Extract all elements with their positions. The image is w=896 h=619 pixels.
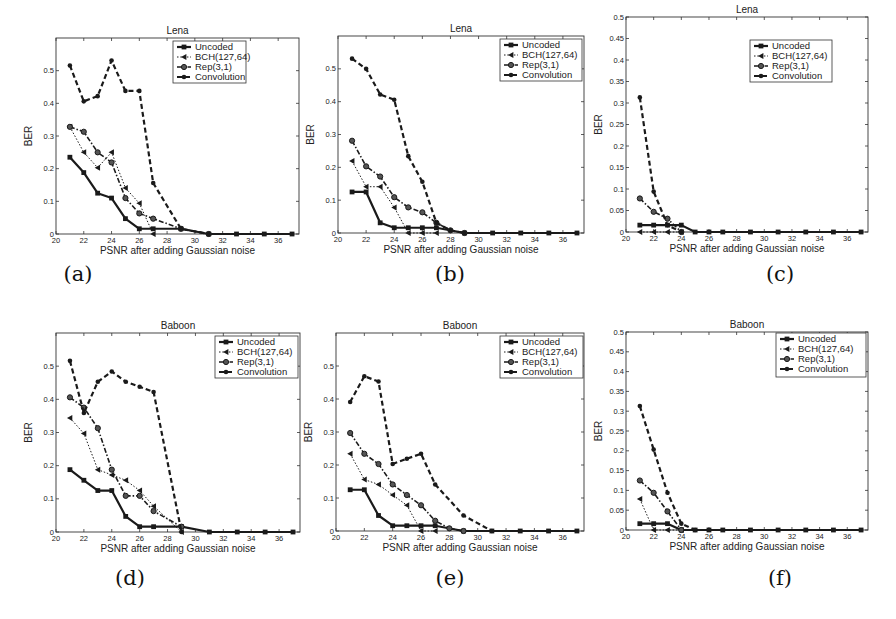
- dot-marker: [96, 379, 101, 384]
- dot-marker: [68, 359, 73, 364]
- triangle-marker: [361, 477, 366, 483]
- triangle-marker: [664, 527, 669, 533]
- circle-marker: [679, 527, 684, 532]
- legend-entry: Convolution: [522, 69, 572, 80]
- x-tick-label: 26: [417, 533, 425, 542]
- square-marker: [390, 523, 395, 528]
- square-marker: [419, 523, 424, 528]
- x-tick-label: 34: [530, 533, 538, 542]
- triangle-marker: [181, 54, 186, 60]
- square-marker: [785, 337, 790, 342]
- triangle-marker: [349, 158, 354, 164]
- x-tick-label: 24: [107, 236, 115, 245]
- dot-marker: [509, 370, 514, 375]
- x-tick-label: 24: [108, 534, 116, 543]
- square-marker: [575, 529, 580, 534]
- square-marker: [720, 230, 725, 235]
- circle-marker: [137, 211, 142, 216]
- dot-marker: [759, 74, 764, 79]
- y-tick-label: 0.15: [609, 466, 624, 475]
- dot-marker: [392, 97, 397, 102]
- triangle-marker: [418, 528, 423, 534]
- x-tick-label: 30: [474, 533, 482, 542]
- series-bch-127-64-: [67, 415, 184, 535]
- dot-marker: [693, 528, 698, 533]
- triangle-marker: [223, 349, 228, 355]
- x-tick-label: 36: [559, 533, 567, 542]
- legend-entry: BCH(127,64): [772, 50, 827, 61]
- series-convolution: [638, 95, 684, 234]
- square-marker: [665, 521, 670, 526]
- y-tick-label: 0.05: [609, 506, 624, 515]
- circle-marker: [181, 64, 186, 69]
- triangle-marker: [651, 229, 656, 235]
- square-marker: [263, 530, 268, 535]
- dot-marker: [348, 400, 353, 405]
- triangle-marker: [81, 149, 86, 155]
- dot-marker: [448, 228, 453, 233]
- circle-marker: [123, 195, 128, 200]
- dot-marker: [638, 404, 643, 409]
- x-tick-label: 20: [622, 532, 630, 541]
- triangle-marker: [419, 230, 424, 236]
- square-marker: [546, 529, 551, 534]
- circle-marker: [665, 216, 670, 221]
- dot-marker: [151, 390, 156, 395]
- x-tick-label: 26: [135, 236, 143, 245]
- circle-marker: [462, 230, 467, 235]
- y-axis-label: BER: [305, 124, 316, 145]
- square-marker: [637, 521, 642, 526]
- legend-entry: BCH(127,64): [798, 343, 853, 354]
- circle-marker: [123, 493, 128, 498]
- y-tick-label: 0.2: [324, 461, 334, 470]
- legend-entry: Rep(3,1): [195, 61, 232, 72]
- circle-marker: [665, 509, 670, 514]
- square-marker: [68, 467, 73, 472]
- dot-marker: [390, 462, 395, 467]
- y-tick-label: 0: [330, 527, 334, 536]
- square-marker: [224, 340, 229, 345]
- x-axis-label: PSNR after adding Gaussian noise: [100, 543, 256, 554]
- axes-frame: [626, 332, 868, 530]
- circle-marker: [637, 196, 642, 201]
- y-tick-label: 0.3: [614, 407, 624, 416]
- square-marker: [434, 225, 439, 230]
- square-marker: [364, 190, 369, 195]
- y-tick-label: 0.45: [609, 34, 624, 43]
- triangle-marker: [67, 415, 72, 421]
- square-marker: [462, 231, 467, 236]
- dot-marker: [362, 374, 367, 379]
- y-tick-label: 0: [620, 526, 624, 535]
- chart-legend: UncodedBCH(127,64)Rep(3,1)Convolution: [215, 336, 298, 378]
- square-marker: [392, 225, 397, 230]
- circle-marker: [390, 482, 395, 487]
- triangle-marker: [136, 200, 141, 206]
- triangle-marker: [377, 184, 382, 190]
- legend-entry: Convolution: [237, 366, 287, 377]
- x-tick-label: 34: [815, 532, 823, 541]
- y-tick-label: 0.5: [614, 328, 624, 337]
- y-tick-label: 0: [332, 229, 336, 238]
- y-tick-label: 0.1: [44, 197, 54, 206]
- x-axis-label: PSNR after adding Gaussian noise: [669, 541, 825, 552]
- series-uncoded: [637, 223, 863, 235]
- y-tick-label: 0.3: [614, 99, 624, 108]
- dot-marker: [665, 490, 670, 495]
- subfigure-caption: (b): [420, 262, 480, 286]
- triangle-marker: [109, 149, 114, 155]
- legend-entry: Convolution: [522, 366, 572, 377]
- dot-marker: [433, 482, 438, 487]
- dot-marker: [434, 221, 439, 226]
- y-tick-label: 0.1: [614, 185, 624, 194]
- dot-marker: [679, 230, 684, 235]
- dot-marker: [406, 154, 411, 159]
- square-marker: [748, 528, 753, 533]
- square-marker: [803, 528, 808, 533]
- x-tick-label: 26: [418, 235, 426, 244]
- square-marker: [348, 487, 353, 492]
- circle-marker: [348, 430, 353, 435]
- x-tick-label: 32: [218, 236, 226, 245]
- circle-marker: [137, 493, 142, 498]
- series-bch-127-64-: [637, 496, 684, 533]
- legend-entry: Uncoded: [195, 41, 233, 52]
